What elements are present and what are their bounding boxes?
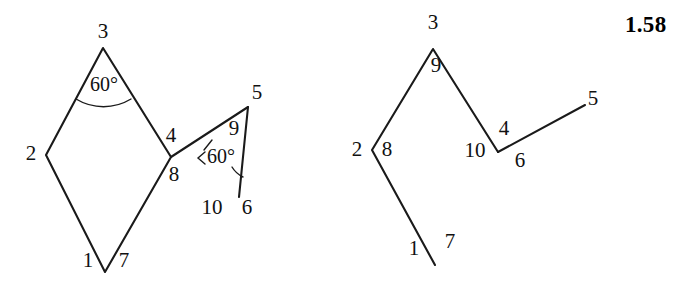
left-flap-segment-5-6 (239, 107, 248, 197)
vertex-label-10: 10 (202, 195, 223, 219)
vertex-label-1: 1 (83, 248, 94, 272)
vertex-label-2: 2 (352, 137, 363, 161)
left-angle-tick-vertex-5 (198, 152, 205, 164)
vertex-label-10: 10 (465, 138, 486, 162)
figure-caption: 1.58 (625, 12, 666, 37)
vertex-label-1: 1 (409, 236, 420, 260)
vertex-label-4: 4 (499, 116, 510, 140)
vertex-label-9: 9 (229, 116, 240, 140)
figure-root: 3 2 1 7 4 8 5 9 10 6 60° 60° 3 9 2 8 1 (0, 0, 677, 282)
vertex-label-6: 6 (515, 148, 526, 172)
vertex-label-6: 6 (242, 195, 253, 219)
vertex-label-5: 5 (252, 80, 263, 104)
vertex-label-2: 2 (26, 141, 37, 165)
vertex-label-4: 4 (166, 123, 177, 147)
right-figure: 3 9 2 8 1 7 4 10 6 5 (352, 10, 599, 265)
vertex-label-5: 5 (588, 86, 599, 110)
vertex-label-8: 8 (169, 162, 180, 186)
vertex-label-3: 3 (98, 19, 109, 43)
left-figure: 3 2 1 7 4 8 5 9 10 6 60° 60° (26, 19, 263, 272)
vertex-label-9: 9 (431, 53, 442, 77)
angle-label-vertex-3: 60° (90, 73, 118, 95)
left-angle-arc-vertex-3 (76, 99, 131, 107)
angle-label-vertex-5: 60° (207, 145, 235, 167)
vertex-label-7: 7 (445, 229, 456, 253)
vertex-label-7: 7 (119, 248, 130, 272)
vertex-label-3: 3 (428, 10, 439, 34)
vertex-label-8: 8 (382, 137, 393, 161)
diagram-canvas: 3 2 1 7 4 8 5 9 10 6 60° 60° 3 9 2 8 1 (0, 0, 677, 282)
right-segment-6-5 (498, 105, 585, 152)
